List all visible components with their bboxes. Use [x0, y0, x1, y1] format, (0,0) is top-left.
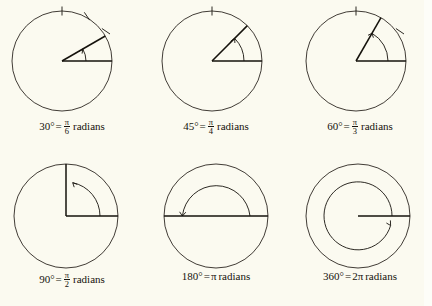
angle-diagram-30 — [0, 0, 144, 128]
equals-sign: = — [344, 270, 352, 282]
angle-diagram-90 — [0, 153, 144, 281]
radians-word: radians — [71, 273, 105, 285]
equals-sign: = — [199, 120, 207, 132]
fraction-numerator: π — [64, 118, 70, 127]
fraction-denominator: 4 — [208, 126, 214, 136]
radians-word: radians — [71, 120, 105, 132]
degree-value: 360° — [323, 270, 344, 282]
angle-label-90: 90°=π2radians — [0, 271, 144, 290]
terminal-side-ray — [62, 36, 105, 61]
angle-panel-grid: 30°=π6radians 45°=π4radians — [0, 0, 432, 306]
terminal-side-ray — [356, 18, 381, 61]
fraction-numerator: π — [352, 118, 358, 127]
terminal-side-ray — [212, 26, 247, 61]
angle-label-360: 360°=2πradians — [288, 271, 432, 282]
fraction-numerator: π — [64, 271, 70, 280]
angle-panel-30: 30°=π6radians — [0, 0, 144, 153]
angle-diagram-60 — [288, 0, 432, 128]
angle-label-45: 45°=π4radians — [144, 118, 288, 137]
radian-fraction: π4 — [208, 118, 214, 137]
radians-word: radians — [215, 120, 249, 132]
angle-diagram-45 — [144, 0, 288, 128]
equals-sign: = — [343, 120, 351, 132]
radian-fraction: π3 — [352, 118, 358, 137]
angle-label-60: 60°=π3radians — [288, 118, 432, 137]
angle-panel-60: 60°=π3radians — [288, 0, 432, 153]
angle-diagram-180 — [144, 153, 288, 281]
degree-value: 90° — [39, 273, 54, 285]
angle-panel-360: 360°=2πradians — [288, 153, 432, 306]
radian-fraction: π2 — [64, 271, 70, 290]
angle-arc-arrow — [372, 33, 388, 61]
angle-panel-90: 90°=π2radians — [0, 153, 144, 306]
angle-diagram-360 — [288, 153, 432, 281]
radian-fraction: π6 — [64, 118, 70, 137]
fraction-denominator: 2 — [64, 279, 70, 289]
equals-sign: = — [55, 120, 63, 132]
angle-arc-arrow — [83, 49, 86, 61]
radians-word: radians — [363, 270, 397, 282]
angle-panel-180: 180°=πradians — [144, 153, 288, 306]
degree-value: 180° — [182, 270, 203, 282]
arc-arrowhead — [79, 49, 83, 54]
angle-arc-arrow — [235, 38, 244, 61]
angle-arc-arrow — [73, 183, 100, 216]
equals-sign: = — [203, 270, 211, 282]
angle-panel-45: 45°=π4radians — [144, 0, 288, 153]
fraction-numerator: π — [208, 118, 214, 127]
radian-pi-value: 2π — [352, 270, 363, 282]
angle-label-180: 180°=πradians — [144, 271, 288, 282]
degree-value: 60° — [327, 120, 342, 132]
figure-root: 30°=π6radians 45°=π4radians — [0, 0, 432, 306]
equals-sign: = — [55, 273, 63, 285]
fraction-denominator: 3 — [352, 126, 358, 136]
angle-label-30: 30°=π6radians — [0, 118, 144, 137]
angle-arc-arrow — [182, 186, 250, 216]
degree-value: 45° — [183, 120, 198, 132]
arc-arrowhead — [386, 220, 390, 225]
fraction-denominator: 6 — [64, 126, 70, 136]
degree-value: 30° — [39, 120, 54, 132]
radians-word: radians — [359, 120, 393, 132]
radians-word: radians — [216, 270, 250, 282]
